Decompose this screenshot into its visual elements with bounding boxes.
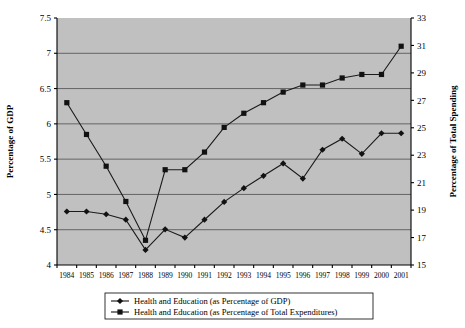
data-point-marker bbox=[340, 75, 345, 80]
plot-area-background bbox=[57, 18, 411, 265]
y-axis-left-tick-label: 6.5 bbox=[40, 84, 52, 94]
y-axis-right-tick-label: 25 bbox=[417, 123, 427, 133]
x-axis-tick-label: 1996 bbox=[295, 271, 310, 280]
y-axis-left-tick-label: 5.5 bbox=[40, 154, 52, 164]
chart-container: 44.555.566.577.5151719212325272931331984… bbox=[0, 0, 465, 328]
data-point-marker bbox=[261, 100, 266, 105]
x-axis-tick-label: 1984 bbox=[59, 271, 74, 280]
data-point-marker bbox=[123, 199, 128, 204]
y-axis-left-tick-label: 4 bbox=[47, 260, 52, 270]
data-point-marker bbox=[163, 167, 168, 172]
x-axis-tick-label: 1999 bbox=[354, 271, 369, 280]
y-axis-right-tick-label: 31 bbox=[417, 41, 426, 51]
line-chart: 44.555.566.577.5151719212325272931331984… bbox=[0, 0, 465, 328]
y-axis-right-tick-label: 15 bbox=[417, 260, 427, 270]
data-point-marker bbox=[281, 90, 286, 95]
x-axis-tick-label: 1992 bbox=[217, 271, 232, 280]
y-axis-left-tick-label: 5 bbox=[47, 190, 52, 200]
x-axis-tick-label: 1998 bbox=[335, 271, 350, 280]
x-axis-tick-label: 1985 bbox=[79, 271, 94, 280]
data-point-marker bbox=[241, 111, 246, 116]
data-point-marker bbox=[399, 44, 404, 49]
x-axis-tick-label: 1997 bbox=[315, 271, 330, 280]
data-point-marker bbox=[222, 125, 227, 130]
legend-item[interactable]: Health and Education (as Percentage of G… bbox=[111, 296, 290, 306]
y-axis-right-tick-label: 23 bbox=[417, 150, 427, 160]
data-point-marker bbox=[84, 132, 89, 137]
y-axis-right-title: Percentage of Total Spending bbox=[448, 85, 458, 198]
y-axis-right-tick-label: 19 bbox=[417, 205, 427, 215]
x-axis-tick-label: 1986 bbox=[99, 271, 114, 280]
data-point-marker bbox=[143, 238, 148, 243]
y-axis-right-tick-label: 17 bbox=[417, 233, 427, 243]
data-point-marker bbox=[379, 72, 384, 77]
y-axis-left-tick-label: 4.5 bbox=[40, 225, 52, 235]
y-axis-right-tick-label: 27 bbox=[417, 96, 427, 106]
x-axis-tick-label: 1989 bbox=[158, 271, 173, 280]
legend-label: Health and Education (as Percentage of T… bbox=[134, 307, 338, 317]
data-point-marker bbox=[64, 100, 69, 105]
data-point-marker bbox=[300, 82, 305, 87]
y-axis-left-tick-label: 6 bbox=[47, 119, 52, 129]
x-axis-tick-label: 1991 bbox=[197, 271, 212, 280]
x-axis-tick-label: 2001 bbox=[394, 271, 409, 280]
data-point-marker bbox=[117, 309, 122, 314]
legend-item[interactable]: Health and Education (as Percentage of T… bbox=[111, 307, 338, 317]
y-axis-left-tick-label: 7.5 bbox=[40, 13, 52, 23]
data-point-marker bbox=[202, 149, 207, 154]
y-axis-right-tick-label: 29 bbox=[417, 68, 427, 78]
legend-label: Health and Education (as Percentage of G… bbox=[134, 296, 290, 306]
data-point-marker bbox=[182, 167, 187, 172]
x-axis-tick-label: 1987 bbox=[118, 271, 133, 280]
x-axis-tick-label: 2000 bbox=[374, 271, 389, 280]
legend: Health and Education (as Percentage of G… bbox=[105, 293, 373, 319]
data-point-marker bbox=[359, 72, 364, 77]
x-axis-tick-label: 1990 bbox=[177, 271, 192, 280]
data-point-marker bbox=[104, 164, 109, 169]
x-axis-tick-label: 1995 bbox=[276, 271, 291, 280]
y-axis-right-tick-label: 21 bbox=[417, 178, 426, 188]
x-axis-tick-label: 1988 bbox=[138, 271, 153, 280]
data-point-marker bbox=[320, 82, 325, 87]
x-axis-tick-label: 1994 bbox=[256, 271, 271, 280]
y-axis-left-tick-label: 7 bbox=[47, 48, 52, 58]
x-axis-tick-label: 1993 bbox=[236, 271, 251, 280]
y-axis-right-tick-label: 33 bbox=[417, 13, 427, 23]
y-axis-left-title: Percentage of GDP bbox=[5, 104, 15, 178]
